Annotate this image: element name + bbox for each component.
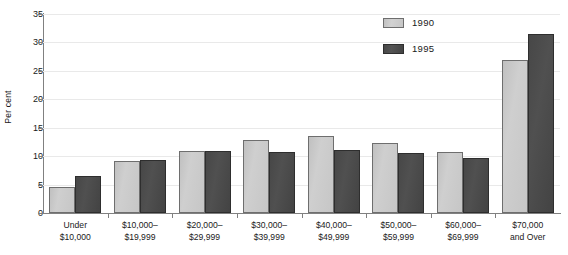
gridline bbox=[43, 128, 560, 129]
x-separator-tick bbox=[302, 213, 303, 218]
x-axis-labels: Under$10,000$10,000–$19,999$20,000–$29,9… bbox=[43, 220, 561, 254]
gridline bbox=[43, 71, 560, 72]
x-tick-label: $70,000and Over bbox=[495, 220, 560, 243]
bar bbox=[179, 151, 205, 213]
bar bbox=[334, 150, 360, 213]
legend-swatch-1990 bbox=[383, 18, 404, 28]
bar bbox=[75, 176, 101, 213]
plot-area bbox=[43, 14, 560, 213]
legend-label-1990: 1990 bbox=[412, 17, 434, 28]
bar bbox=[205, 151, 231, 213]
bar bbox=[528, 34, 554, 213]
bar bbox=[398, 153, 424, 213]
y-axis-ticks: 05101520253035 bbox=[0, 0, 43, 255]
x-separator-tick bbox=[108, 213, 109, 218]
bar bbox=[308, 136, 334, 213]
x-separator-tick bbox=[366, 213, 367, 218]
bar-chart: Per cent 05101520253035 Under$10,000$10,… bbox=[0, 0, 568, 255]
x-separator-tick bbox=[172, 213, 173, 218]
x-separator-tick bbox=[237, 213, 238, 218]
legend-label-1995: 1995 bbox=[412, 43, 434, 54]
bar bbox=[114, 161, 140, 213]
x-tick-label: $50,000–$59,999 bbox=[366, 220, 431, 243]
bar bbox=[243, 140, 269, 213]
x-tick-label: Under$10,000 bbox=[43, 220, 108, 243]
x-tick-label: $40,000–$49,999 bbox=[302, 220, 367, 243]
bar bbox=[463, 158, 489, 213]
x-separator-tick bbox=[431, 213, 432, 218]
bar bbox=[372, 143, 398, 213]
gridline bbox=[43, 14, 560, 15]
x-tick-label: $10,000–$19,999 bbox=[108, 220, 173, 243]
x-tick-label: $20,000–$29,999 bbox=[172, 220, 237, 243]
chart-legend: 1990 1995 bbox=[383, 17, 473, 69]
gridline bbox=[43, 99, 560, 100]
x-tick-label: $30,000–$39,999 bbox=[237, 220, 302, 243]
x-separator-tick bbox=[495, 213, 496, 218]
bar bbox=[49, 187, 75, 213]
bar bbox=[502, 60, 528, 213]
legend-item-1990: 1990 bbox=[383, 17, 473, 28]
bar bbox=[269, 152, 295, 213]
gridline bbox=[43, 42, 560, 43]
legend-item-1995: 1995 bbox=[383, 43, 473, 54]
bar bbox=[140, 160, 166, 213]
legend-swatch-1995 bbox=[383, 44, 404, 54]
bar bbox=[437, 152, 463, 213]
x-tick-label: $60,000–$69,999 bbox=[431, 220, 496, 243]
